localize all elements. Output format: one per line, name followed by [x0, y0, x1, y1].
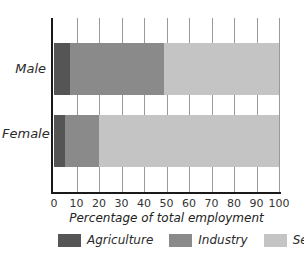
x-tick-label: 80 — [227, 197, 241, 210]
category-label-male: Male — [2, 61, 46, 76]
bar-male — [54, 43, 279, 95]
category-label-female: Female — [2, 126, 46, 141]
gridline — [279, 18, 280, 193]
x-tick-label: 90 — [250, 197, 264, 210]
x-axis-label: Percentage of total employment — [54, 211, 279, 225]
x-tick-label: 10 — [70, 197, 84, 210]
bar-segment-agriculture — [54, 43, 70, 95]
plot-area — [54, 18, 279, 193]
legend-swatch-agriculture — [58, 234, 81, 247]
x-tick-label: 20 — [92, 197, 106, 210]
x-tick-label: 70 — [205, 197, 219, 210]
legend-swatch-services — [264, 234, 287, 247]
bar-segment-agriculture — [54, 115, 65, 167]
bar-segment-services — [164, 43, 279, 95]
bar-female — [54, 115, 279, 167]
x-tick-label: 0 — [51, 197, 58, 210]
legend-label-agriculture: Agriculture — [87, 233, 153, 247]
bar-segment-industry — [70, 43, 165, 95]
legend-label-services: Services — [293, 233, 304, 247]
legend-label-industry: Industry — [198, 233, 247, 247]
x-tick-label: 40 — [137, 197, 151, 210]
bar-segment-industry — [65, 115, 99, 167]
x-tick-label: 30 — [115, 197, 129, 210]
x-tick-label: 100 — [269, 197, 290, 210]
x-tick-label: 60 — [182, 197, 196, 210]
legend-swatch-industry — [169, 234, 192, 247]
x-tick-label: 50 — [160, 197, 174, 210]
legend: Agriculture Industry Services — [58, 233, 304, 247]
bar-segment-services — [99, 115, 279, 167]
x-axis-line — [51, 192, 281, 194]
y-axis-line — [51, 18, 53, 194]
